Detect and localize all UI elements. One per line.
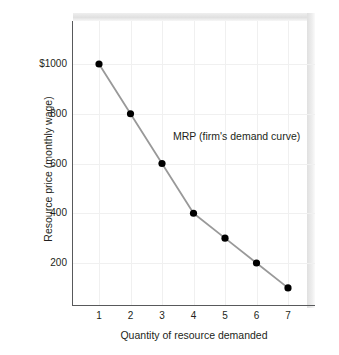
y-axis-title: Resource price (monthly wage) — [42, 49, 54, 289]
series-annotation-label: MRP (firm's demand curve) — [173, 130, 300, 142]
x-axis-title: Quantity of resource demanded — [73, 329, 315, 341]
data-point — [158, 160, 165, 167]
data-point — [190, 210, 197, 217]
data-point — [284, 284, 291, 291]
mrp-data-points — [95, 60, 291, 291]
data-point — [127, 110, 134, 117]
data-point — [253, 259, 260, 266]
data-point — [95, 60, 102, 67]
chart-figure: 200400600800$1000 1234567 MRP (firm's de… — [0, 0, 339, 355]
mrp-demand-line — [99, 64, 288, 288]
data-point — [221, 235, 228, 242]
